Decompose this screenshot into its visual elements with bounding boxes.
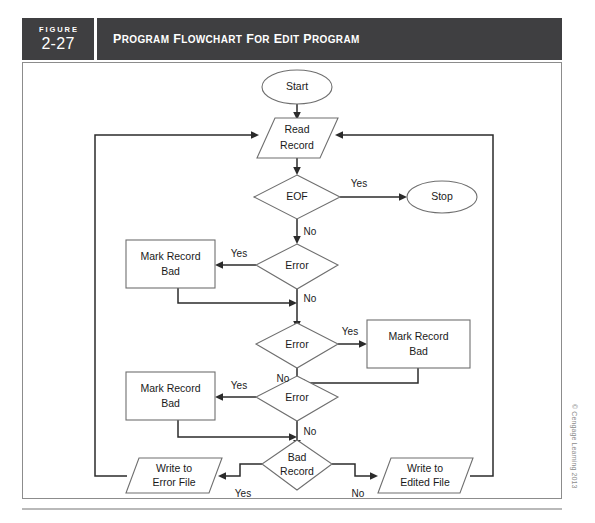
flowchart-frame [22,62,562,499]
figure-title-block: PROGRAM FLOWCHART FOR EDIT PROGRAM [97,18,562,60]
bottom-divider [22,508,562,510]
copyright-credit: © Cengage Learning 2013 [566,404,578,514]
figure-number: 2-27 [41,35,74,53]
figure-root: FIGURE 2-27 PROGRAM FLOWCHART FOR EDIT P… [0,0,595,523]
figure-label-word: FIGURE [37,25,79,35]
figure-title: PROGRAM FLOWCHART FOR EDIT PROGRAM [113,32,360,46]
figure-header-bar: FIGURE 2-27 PROGRAM FLOWCHART FOR EDIT P… [22,18,562,60]
figure-number-block: FIGURE 2-27 [22,18,97,60]
